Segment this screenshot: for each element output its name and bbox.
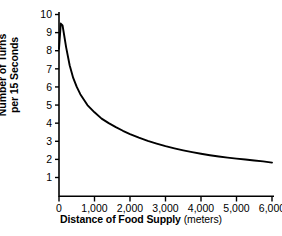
x-tick-label: 4,000 (188, 202, 214, 214)
x-tick-label: 3,000 (152, 202, 178, 214)
y-tick-label: 8 (46, 44, 52, 56)
y-axis-label-line2: per 15 Seconds (8, 15, 20, 135)
y-axis-label: Number of Turns per 15 Seconds (0, 15, 36, 135)
x-tick-label: 5,000 (223, 202, 249, 214)
y-tick-label: 10 (40, 8, 52, 20)
x-axis-tick-labels: 01,0002,0003,0004,0005,0006,000 (56, 202, 282, 214)
y-axis-label-line1: Number of Turns (0, 15, 8, 135)
x-tick-label: 0 (56, 202, 62, 214)
y-axis-tick-labels: 12345678910 (40, 8, 52, 183)
x-tick-label: 2,000 (117, 202, 143, 214)
y-tick-label: 7 (46, 63, 52, 75)
x-axis-label-units: (meters) (184, 213, 222, 225)
plot-area: 12345678910 01,0002,0003,0004,0005,0006,… (0, 0, 282, 236)
axes (59, 12, 274, 197)
x-axis-label: Distance of Food Supply (meters) (0, 213, 282, 225)
x-axis-label-text: Distance of Food Supply (60, 213, 181, 225)
y-tick-label: 5 (46, 99, 52, 111)
y-tick-label: 9 (46, 26, 52, 38)
chart-figure: 12345678910 01,0002,0003,0004,0005,0006,… (0, 0, 282, 236)
y-tick-label: 4 (46, 117, 52, 129)
y-tick-label: 2 (46, 153, 52, 165)
data-series-line (59, 24, 272, 163)
x-tick-label: 6,000 (259, 202, 282, 214)
x-tick-label: 1,000 (81, 202, 107, 214)
y-tick-label: 6 (46, 81, 52, 93)
y-tick-label: 3 (46, 135, 52, 147)
y-tick-label: 1 (46, 171, 52, 183)
